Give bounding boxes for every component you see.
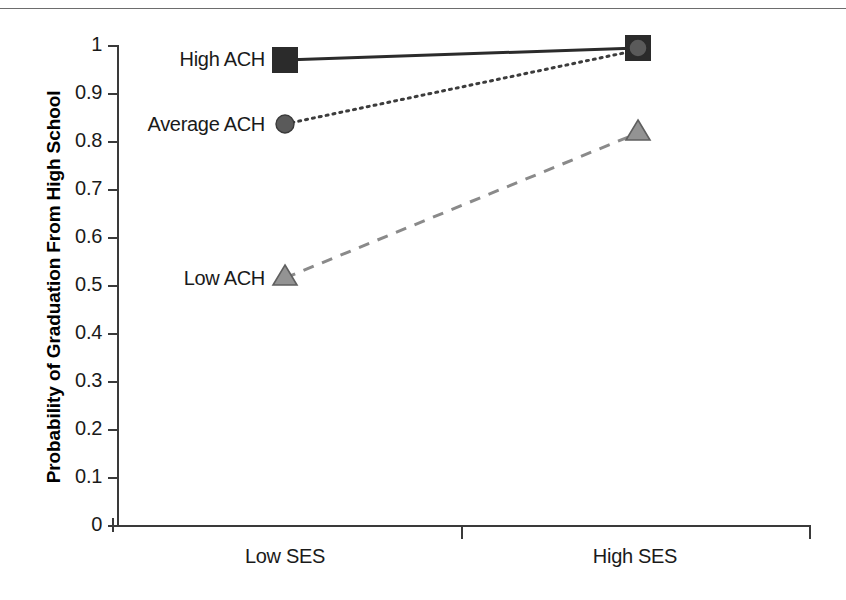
average-ach-marker-high-ses xyxy=(629,39,647,57)
series-high-ach xyxy=(272,35,651,73)
low-ach-line xyxy=(285,133,638,278)
plot-area xyxy=(0,0,846,600)
average-ach-marker-low-ses xyxy=(276,115,294,133)
chart-figure: Probability of Graduation From High Scho… xyxy=(0,0,846,600)
average-ach-line xyxy=(285,50,638,124)
high-ach-line xyxy=(285,48,638,60)
series-average-ach xyxy=(276,50,638,133)
series-low-ach xyxy=(273,120,650,285)
low-ach-marker-high-ses xyxy=(626,120,650,140)
high-ach-marker-low-ses xyxy=(272,47,298,73)
